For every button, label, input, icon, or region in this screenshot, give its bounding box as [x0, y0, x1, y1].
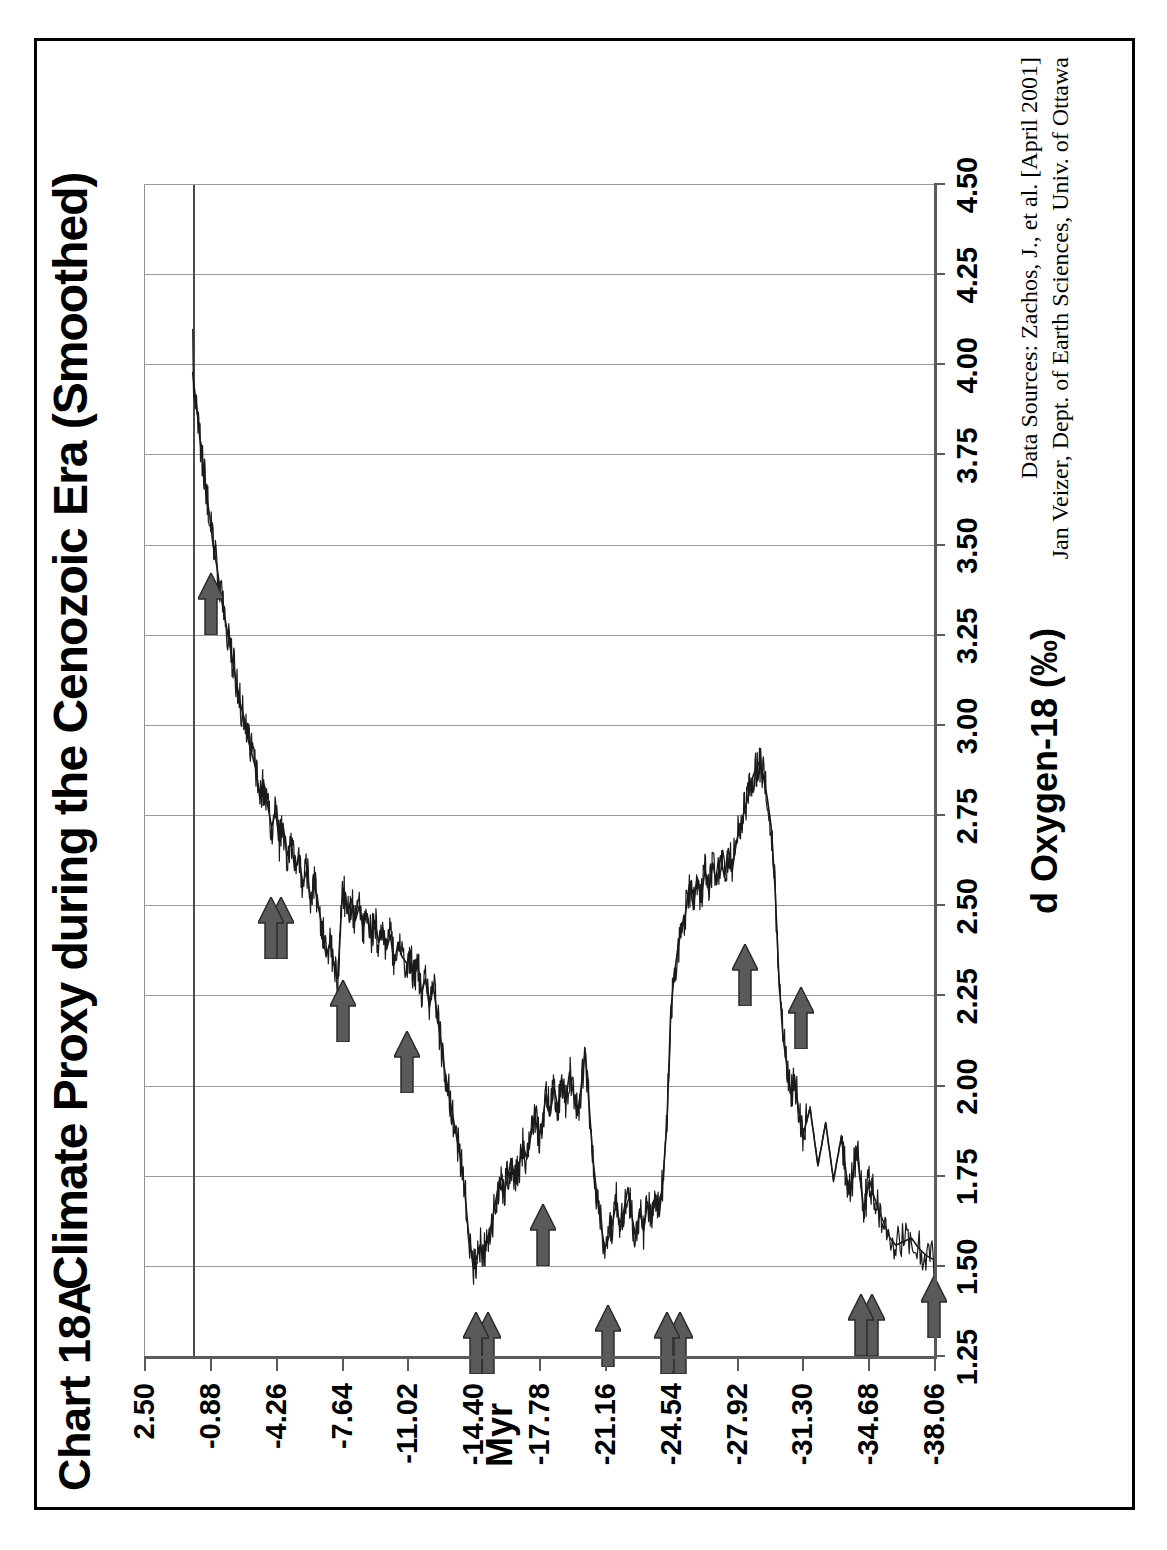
- data-source-credits: Data Sources: Zachos, J., et al. [April …: [1014, 57, 1075, 559]
- value-axis-tick-label: 3.25: [951, 608, 984, 664]
- credit-line-1: Data Sources: Zachos, J., et al. [April …: [1014, 57, 1045, 559]
- annotation-arrow: [653, 1312, 679, 1374]
- value-axis-tick-label: 3.50: [951, 517, 984, 573]
- category-axis-tick: [275, 1358, 277, 1371]
- value-axis-tick-label: 2.50: [951, 878, 984, 934]
- value-axis-tick: [934, 814, 945, 816]
- value-axis-tick: [934, 1085, 945, 1087]
- chart-page: Chart 18A Climate Proxy during the Cenoz…: [0, 0, 1167, 1550]
- category-axis-tick-label: -31.30: [785, 1383, 818, 1550]
- value-axis-tick-label: 4.00: [951, 337, 984, 393]
- figure-frame: Chart 18A Climate Proxy during the Cenoz…: [34, 38, 1135, 1510]
- category-axis-tick: [341, 1358, 343, 1371]
- category-axis-tick: [539, 1358, 541, 1371]
- value-axis-tick: [934, 273, 945, 275]
- chart-number-label: Chart 18A: [49, 1283, 101, 1491]
- value-axis-tick-label: 1.75: [951, 1148, 984, 1204]
- value-axis-tick: [934, 634, 945, 636]
- category-axis-tick: [209, 1358, 211, 1371]
- category-axis-tick: [604, 1358, 606, 1371]
- annotation-arrow: [198, 573, 224, 635]
- annotation-arrow: [257, 897, 283, 959]
- category-axis-tick-label: -7.64: [325, 1383, 358, 1550]
- category-axis-tick: [670, 1358, 672, 1371]
- category-axis-tick-label: -27.92: [720, 1383, 753, 1550]
- annotation-arrow: [329, 980, 355, 1042]
- value-axis-tick-label: 4.25: [951, 247, 984, 303]
- annotation-arrow: [530, 1204, 556, 1266]
- value-axis-tick-label: 3.75: [951, 427, 984, 483]
- value-axis-tick: [934, 1175, 945, 1177]
- value-axis-tick: [934, 994, 945, 996]
- value-axis-tick: [934, 724, 945, 726]
- chart-title: Climate Proxy during the Cenozoic Era (S…: [43, 173, 98, 1290]
- category-axis-tick-label: -11.02: [390, 1383, 423, 1550]
- value-axis-tick-label: 3.00: [951, 698, 984, 754]
- category-axis-tick-label: -24.54: [654, 1383, 687, 1550]
- value-axis-line: [934, 185, 937, 1357]
- category-axis-tick: [934, 1358, 936, 1371]
- annotation-arrow: [731, 944, 757, 1006]
- category-axis-tick: [868, 1358, 870, 1371]
- category-axis-tick-label: -0.88: [193, 1383, 226, 1550]
- category-axis-tick: [473, 1358, 475, 1371]
- category-axis-tick: [736, 1358, 738, 1371]
- category-axis-tick: [407, 1358, 409, 1371]
- value-axis-tick: [934, 1355, 945, 1357]
- value-axis-tick-label: 1.25: [951, 1329, 984, 1385]
- credit-line-2: Jan Veizer, Dept. of Earth Sciences, Uni…: [1044, 57, 1075, 559]
- value-axis-tick-label: 2.25: [951, 968, 984, 1024]
- value-axis-tick: [934, 1265, 945, 1267]
- category-axis-tick-label: -17.78: [522, 1383, 555, 1550]
- value-axis-tick-label: 1.50: [951, 1239, 984, 1295]
- category-axis-tick-label: -34.68: [851, 1383, 884, 1550]
- data-series-oxygen18: [144, 185, 934, 1357]
- category-axis-tick-label: -4.26: [259, 1383, 292, 1550]
- category-axis-tick-label: -21.16: [588, 1383, 621, 1550]
- category-axis-title: Myr: [479, 1325, 521, 1545]
- annotation-arrow: [393, 1031, 419, 1093]
- category-axis-tick-label: 2.50: [127, 1383, 160, 1550]
- plot-area: [144, 185, 934, 1357]
- annotation-arrow: [847, 1294, 873, 1356]
- value-axis-tick: [934, 183, 945, 185]
- value-axis-tick-label: 2.00: [951, 1058, 984, 1114]
- value-axis-tick: [934, 453, 945, 455]
- value-axis-tick-label: 4.50: [951, 157, 984, 213]
- category-axis-tick: [144, 1358, 146, 1371]
- value-axis-tick: [934, 544, 945, 546]
- category-axis-tick: [802, 1358, 804, 1371]
- value-axis-tick: [934, 363, 945, 365]
- value-axis-tick-label: 2.75: [951, 788, 984, 844]
- annotation-arrow: [788, 987, 814, 1049]
- rotated-chart-container: Chart 18A Climate Proxy during the Cenoz…: [39, 43, 1131, 1505]
- value-axis-tick: [934, 904, 945, 906]
- category-axis-tick-label: -38.06: [917, 1383, 950, 1550]
